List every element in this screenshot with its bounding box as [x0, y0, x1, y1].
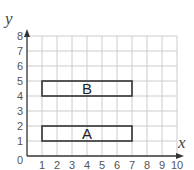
origin-label: 0 [17, 154, 23, 166]
x-tick-label: 4 [84, 159, 90, 170]
x-tick-label: 2 [54, 159, 60, 170]
axes [24, 29, 184, 159]
x-tick-label: 9 [159, 159, 165, 170]
y-tick-label: 4 [17, 90, 23, 102]
y-axis-arrow-icon [24, 29, 30, 37]
y-tick-label: 1 [17, 135, 23, 147]
y-tick-label: 8 [17, 30, 23, 42]
y-tick-label: 3 [17, 105, 23, 117]
x-tick-label: 8 [144, 159, 150, 170]
y-tick-label: 7 [17, 45, 23, 57]
coordinate-grid: AB 1234567891012345678 x y 0 [0, 0, 194, 170]
y-tick-label: 5 [17, 75, 23, 87]
x-tick-label: 3 [69, 159, 75, 170]
rectangle-label-b: B [82, 80, 92, 97]
x-tick-label: 5 [99, 159, 105, 170]
y-axis-label: y [3, 9, 13, 28]
y-tick-label: 6 [17, 60, 23, 72]
x-tick-label: 7 [129, 159, 135, 170]
y-tick-label: 2 [17, 120, 23, 132]
x-tick-label: 6 [114, 159, 120, 170]
x-tick-label: 10 [171, 159, 183, 170]
rectangle-label-a: A [82, 125, 92, 142]
x-tick-label: 1 [39, 159, 45, 170]
x-axis-label: x [177, 133, 186, 152]
